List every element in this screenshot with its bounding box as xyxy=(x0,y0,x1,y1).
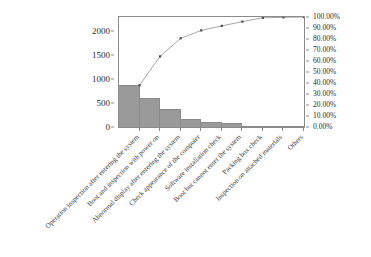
x-axis-tick-mark xyxy=(139,128,140,131)
x-axis-tick-mark xyxy=(180,128,181,131)
x-axis-tick-mark xyxy=(303,128,304,131)
x-axis-tick-mark xyxy=(221,128,222,131)
x-axis-tick-mark xyxy=(262,128,263,131)
x-axis-tick-mark xyxy=(282,128,283,131)
pareto-chart: 0500100015002000 0.00%10.00%20.00%30.00%… xyxy=(0,0,371,257)
x-axis-tick-mark xyxy=(241,128,242,131)
x-axis-category-label: Others xyxy=(286,133,305,152)
x-axis-category-labels: Operation inspection after entering the … xyxy=(0,0,371,257)
x-axis-category-label: Abnormal display after entering the syst… xyxy=(90,133,181,224)
x-axis-tick-mark xyxy=(200,128,201,131)
x-axis-tick-mark xyxy=(159,128,160,131)
